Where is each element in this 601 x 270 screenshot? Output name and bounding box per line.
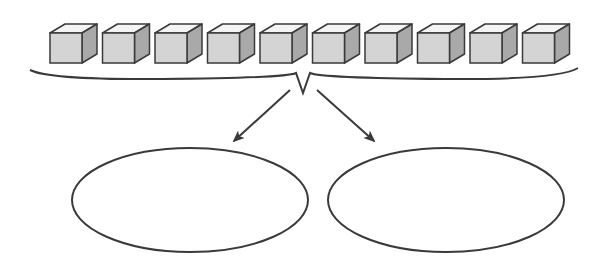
cube <box>260 24 307 63</box>
cube <box>523 24 570 63</box>
group-ellipse-left <box>72 148 308 252</box>
cube <box>470 24 517 63</box>
cube-front-face <box>103 33 135 63</box>
arrow-right <box>317 90 374 141</box>
group-ellipse-right <box>328 148 564 252</box>
cube-front-face <box>418 33 450 63</box>
cube-front-face <box>313 33 345 63</box>
cubes-row <box>50 24 570 63</box>
cube <box>155 24 202 63</box>
cube-front-face <box>260 33 292 63</box>
cube-front-face <box>50 33 82 63</box>
cube <box>418 24 465 63</box>
cube-front-face <box>155 33 187 63</box>
cube <box>103 24 150 63</box>
cube-front-face <box>470 33 502 63</box>
cube <box>50 24 97 63</box>
group-ellipses <box>72 148 564 252</box>
cube <box>208 24 255 63</box>
cube-front-face <box>208 33 240 63</box>
cube-front-face <box>523 33 555 63</box>
cube-front-face <box>365 33 397 63</box>
arrow-left <box>234 90 290 141</box>
cube <box>365 24 412 63</box>
partition-diagram <box>0 0 601 270</box>
cube <box>313 24 360 63</box>
grouping-brace <box>30 68 578 93</box>
arrows <box>234 90 374 141</box>
